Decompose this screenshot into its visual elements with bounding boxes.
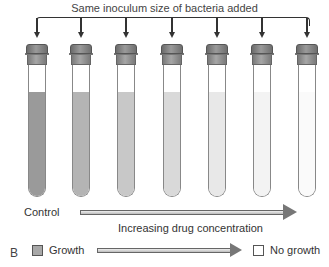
no-growth-swatch <box>253 245 264 256</box>
tube-cap-icon <box>161 44 183 54</box>
test-tube-tube-4 <box>161 44 183 198</box>
tube-cap-icon <box>115 44 137 54</box>
arrow-down-icon <box>169 32 175 38</box>
growth-swatch <box>32 245 43 256</box>
tube-glass <box>253 64 271 197</box>
diagram-title: Same inoculum size of bacteria added <box>0 2 329 14</box>
drop-line <box>125 18 126 32</box>
drop-line <box>216 18 217 32</box>
tube-glass <box>208 64 226 197</box>
tube-glass <box>298 64 316 197</box>
control-label: Control <box>24 206 59 218</box>
legend-arrow-shaft <box>97 248 232 253</box>
tube-glass <box>28 64 46 197</box>
tube-glass <box>72 64 90 197</box>
arrow-down-icon <box>123 32 129 38</box>
drop-line <box>171 18 172 32</box>
axis-label: Increasing drug concentration <box>118 222 263 234</box>
tube-cap-icon <box>296 44 318 54</box>
tube-culture-fill <box>254 92 270 196</box>
test-tube-tube-2 <box>70 44 92 198</box>
panel-label: B <box>10 246 18 260</box>
arrow-down-icon <box>214 32 220 38</box>
arrow-down-icon <box>259 32 265 38</box>
growth-label: Growth <box>49 244 84 256</box>
legend-arrow-head-icon <box>230 243 242 257</box>
tube-culture-fill <box>299 92 315 196</box>
test-tube-tube-5 <box>206 44 228 198</box>
tube-cap-icon <box>206 44 228 54</box>
drop-line <box>36 18 37 32</box>
test-tube-control <box>26 44 48 198</box>
test-tube-tube-7 <box>296 44 318 198</box>
tube-culture-fill <box>209 92 225 196</box>
arrow-down-icon <box>304 32 310 38</box>
drug-gradient-arrow-shaft <box>80 210 285 215</box>
drop-line <box>306 18 307 32</box>
inoculum-bracket <box>36 17 310 26</box>
test-tube-tube-6 <box>251 44 273 198</box>
tube-culture-fill <box>73 92 89 196</box>
arrow-down-icon <box>78 32 84 38</box>
tube-culture-fill <box>118 92 134 196</box>
no-growth-label: No growth <box>270 244 320 256</box>
test-tube-tube-3 <box>115 44 137 198</box>
tube-cap-icon <box>251 44 273 54</box>
tube-culture-fill <box>29 92 45 196</box>
drop-line <box>261 18 262 32</box>
drug-gradient-arrow-head-icon <box>283 204 297 220</box>
drop-line <box>80 18 81 32</box>
tube-culture-fill <box>164 92 180 196</box>
tube-glass <box>117 64 135 197</box>
tube-glass <box>163 64 181 197</box>
tube-cap-icon <box>70 44 92 54</box>
arrow-down-icon <box>34 32 40 38</box>
tube-cap-icon <box>26 44 48 54</box>
